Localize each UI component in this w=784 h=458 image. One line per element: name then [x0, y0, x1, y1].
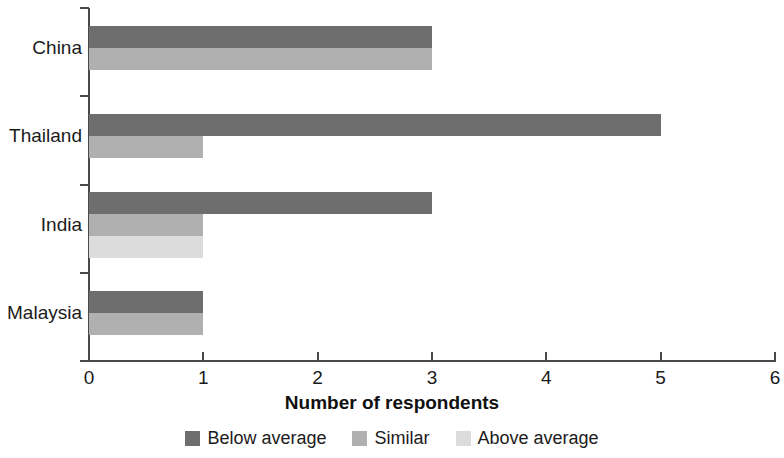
- legend-label: Above average: [478, 428, 599, 449]
- y-axis-category-label: Malaysia: [7, 302, 82, 324]
- legend-swatch-icon: [352, 431, 367, 446]
- legend-item: Above average: [456, 428, 599, 449]
- x-axis-title: Number of respondents: [0, 392, 784, 414]
- x-axis-tick-label: 1: [183, 367, 223, 389]
- x-axis-tick-label: 4: [526, 367, 566, 389]
- x-axis-tick-label: 6: [755, 367, 784, 389]
- y-axis-tick: [80, 272, 89, 274]
- y-axis-tick: [80, 184, 89, 186]
- legend-item: Similar: [352, 428, 429, 449]
- bar: [89, 26, 432, 48]
- bar: [89, 291, 203, 313]
- legend-item: Below average: [185, 428, 326, 449]
- bar: [89, 192, 432, 214]
- legend-label: Similar: [374, 428, 429, 449]
- x-axis-tick-label: 3: [412, 367, 452, 389]
- legend-label: Below average: [207, 428, 326, 449]
- bar: [89, 48, 432, 70]
- y-axis-tick: [80, 7, 89, 9]
- plot-area: [89, 8, 775, 361]
- bar: [89, 214, 203, 236]
- x-axis-tick-label: 0: [69, 367, 109, 389]
- legend-swatch-icon: [185, 431, 200, 446]
- y-axis-category-label: India: [41, 214, 82, 236]
- y-axis-category-label: Thailand: [9, 125, 82, 147]
- x-axis-tick-label: 5: [641, 367, 681, 389]
- x-axis-tick-label: 2: [298, 367, 338, 389]
- bar: [89, 114, 661, 136]
- bar: [89, 136, 203, 158]
- bar-chart: ChinaThailandIndiaMalaysia 0123456 Numbe…: [0, 0, 784, 458]
- bar: [89, 313, 203, 335]
- y-axis-tick: [80, 95, 89, 97]
- legend-swatch-icon: [456, 431, 471, 446]
- y-axis-category-label: China: [32, 37, 82, 59]
- chart-legend: Below averageSimilarAbove average: [0, 428, 784, 449]
- bar: [89, 236, 203, 258]
